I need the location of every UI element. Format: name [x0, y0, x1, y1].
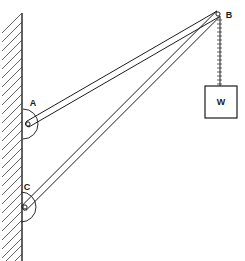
cable-group	[217, 16, 222, 86]
wall-hatching	[2, 13, 22, 261]
label-point-b: B	[226, 10, 233, 20]
diagram-canvas: A B C W	[0, 0, 245, 261]
wall-group	[2, 13, 22, 261]
label-point-a: A	[30, 98, 37, 108]
pivot-c	[23, 205, 27, 209]
mechanics-diagram: A B C W	[0, 0, 245, 261]
label-point-c: C	[24, 182, 31, 192]
pivot-b	[216, 12, 220, 16]
member-cb	[22, 11, 220, 210]
pivot-a	[26, 122, 30, 126]
member-ab	[25, 11, 219, 127]
label-weight: W	[217, 97, 226, 107]
